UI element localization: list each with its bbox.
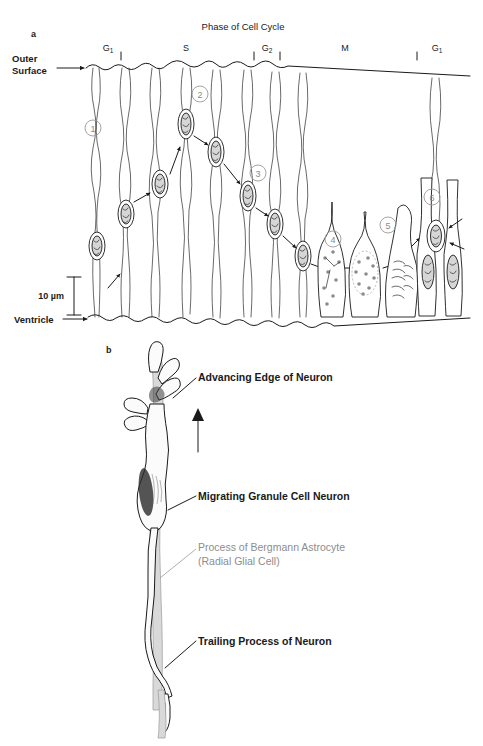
mitotic-cell-prophase [318, 202, 346, 317]
radial-fiber-5b [217, 70, 222, 318]
radial-fiber-7 [269, 72, 274, 317]
step-number-circles: 1 2 3 4 5 [85, 86, 440, 247]
annotation-bergmann-astrocyte-line1: Process of Bergmann Astrocyte [198, 541, 345, 553]
step-circle-1: 1 [85, 120, 101, 136]
outer-surface-label: Outer Surface [12, 53, 84, 76]
migration-arrow-1 [108, 274, 120, 288]
mitotic-cell-metaphase [349, 212, 381, 317]
step-number-2: 2 [197, 90, 202, 100]
nucleus-s-b [155, 174, 165, 194]
migration-arrow-4 [194, 136, 208, 145]
nucleus-g2-a [243, 185, 253, 207]
panel-b: b [106, 342, 350, 738]
leader-bergmann-astrocyte [160, 549, 196, 578]
step-number-1: 1 [90, 124, 95, 134]
growth-cone-filopodium-4 [124, 398, 148, 414]
migration-direction-arrow [192, 408, 204, 452]
phase-label-s: S [183, 43, 189, 53]
nucleus-g1-b [121, 204, 131, 224]
scale-bar-label: 10 µm [38, 291, 64, 301]
phase-label-m: M [341, 43, 349, 53]
nucleus-s-c [211, 141, 221, 163]
phase-label-g1-first: G1 [103, 43, 114, 54]
step-circle-5: 5 [380, 217, 396, 233]
phase-label-g2: G2 [262, 43, 273, 54]
growth-cone-filopodium-5 [124, 416, 148, 431]
radial-fiber-5 [210, 70, 215, 317]
nucleus-g1-reentry [431, 225, 442, 247]
migration-arrow-2 [134, 193, 150, 202]
migration-arrow-5 [224, 164, 240, 184]
radial-fiber-2b [126, 68, 131, 317]
radial-fiber-4b [187, 68, 192, 314]
panel-b-letter: b [106, 345, 112, 355]
panel-a-letter: a [31, 29, 37, 39]
radial-fiber-4 [180, 68, 185, 317]
daughter-cell-right [444, 180, 463, 316]
outer-surface-line2: Surface [12, 65, 47, 76]
annotation-bergmann-astrocyte-line2: (Radial Glial Cell) [198, 555, 280, 567]
nucleus-s-a [181, 113, 191, 135]
radial-fiber-1b [96, 68, 101, 317]
migration-arrow-head [192, 408, 204, 421]
step-number-5: 5 [385, 221, 390, 231]
panel-a: a Phase of Cell Cycle G1 S G2 M G1 Outer… [12, 21, 470, 328]
radial-fiber-1 [91, 68, 96, 317]
phase-label-g1-second: G1 [432, 43, 443, 54]
annotation-trailing-process: Trailing Process of Neuron [198, 635, 332, 647]
radial-fiber-3 [149, 68, 154, 317]
step-number-6: 6 [429, 193, 434, 203]
daughter-nucleus-left [422, 255, 434, 289]
phase-labels: G1 S G2 M G1 [103, 43, 443, 54]
outer-surface-contour [86, 61, 470, 76]
panel-a-title: Phase of Cell Cycle [202, 21, 285, 32]
figure-root: a Phase of Cell Cycle G1 S G2 M G1 Outer… [0, 0, 483, 746]
radial-fiber-7b [276, 72, 281, 318]
bergmann-process-distal [158, 690, 166, 738]
annotation-migrating-neuron: Migrating Granule Cell Neuron [198, 490, 350, 502]
daughter-nucleus-right [447, 255, 459, 289]
ventricle-label: Ventricle [14, 314, 87, 325]
annotation-advancing-edge: Advancing Edge of Neuron [198, 371, 333, 383]
step-number-4: 4 [330, 235, 335, 245]
migration-arrow-3 [170, 147, 180, 174]
radial-fiber-8b [303, 73, 308, 317]
ventricle-text: Ventricle [14, 314, 54, 325]
nucleus-g2-c [298, 245, 308, 267]
radial-fiber-8 [297, 73, 302, 317]
leader-migrating-neuron [168, 496, 196, 510]
step-circle-2: 2 [192, 86, 208, 102]
nucleus-g2-b [270, 213, 280, 235]
step-number-3: 3 [255, 169, 260, 179]
neuronal-migration-figure: a Phase of Cell Cycle G1 S G2 M G1 Outer… [0, 0, 483, 746]
migration-arrow-6 [256, 208, 268, 216]
migration-arrow-7 [283, 236, 296, 248]
nucleus-g1-a [92, 236, 102, 256]
scale-bar: 10 µm [38, 277, 81, 315]
outer-surface-line1: Outer [12, 53, 38, 64]
radial-fiber-2 [119, 68, 124, 317]
leader-trailing-process [165, 641, 196, 668]
step-circle-3: 3 [250, 165, 266, 181]
